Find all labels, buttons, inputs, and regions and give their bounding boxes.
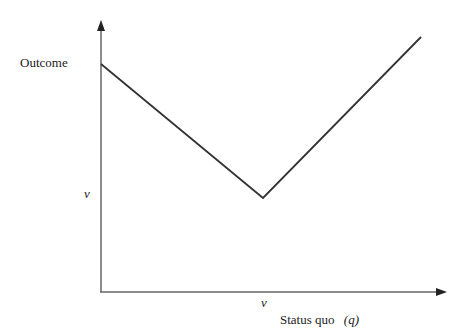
x-axis-variable: (q) xyxy=(344,312,359,327)
x-axis-label: Status quo (q) xyxy=(280,312,359,328)
x-axis-label-text: Status quo xyxy=(280,312,335,327)
y-axis-label: Outcome xyxy=(20,55,68,71)
y-axis-arrow-icon xyxy=(97,20,105,31)
x-axis xyxy=(100,288,447,296)
x-axis-arrow-icon xyxy=(436,288,447,296)
x-tick-label-v: v xyxy=(261,295,267,311)
outcome-curve xyxy=(101,37,421,198)
y-axis xyxy=(97,20,105,292)
diagram-canvas xyxy=(0,0,462,334)
y-tick-label-v: v xyxy=(84,186,90,202)
